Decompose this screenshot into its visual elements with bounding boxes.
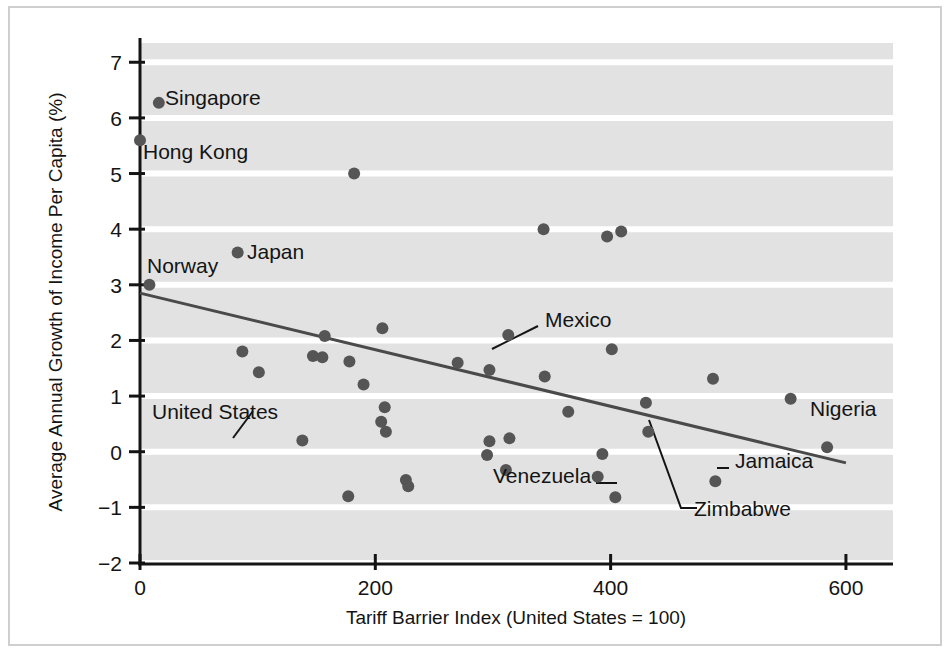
y-axis-tick-label: −1 xyxy=(98,496,122,519)
data-point xyxy=(380,426,392,438)
data-point xyxy=(253,366,265,378)
data-point xyxy=(609,491,621,503)
data-point xyxy=(606,343,618,355)
x-axis-title: Tariff Barrier Index (United States = 10… xyxy=(346,607,686,628)
data-point xyxy=(562,406,574,418)
data-point xyxy=(376,322,388,334)
data-point xyxy=(538,223,550,235)
data-point xyxy=(342,490,354,502)
data-point xyxy=(502,329,514,341)
data-point xyxy=(402,480,414,492)
data-point xyxy=(709,475,721,487)
data-point xyxy=(640,397,652,409)
y-axis-tick-label: 0 xyxy=(110,441,122,464)
y-axis-tick-labels: −2−101234567 xyxy=(98,51,122,575)
point-label-jamaica: Jamaica xyxy=(735,449,814,472)
data-point xyxy=(236,346,248,358)
data-point xyxy=(483,364,495,376)
data-point xyxy=(592,471,604,483)
point-label-nigeria: Nigeria xyxy=(810,397,877,420)
y-axis-tick-label: 2 xyxy=(110,329,122,352)
data-point xyxy=(143,279,155,291)
data-point xyxy=(153,97,165,109)
point-label-mexico: Mexico xyxy=(545,308,612,331)
data-point xyxy=(379,401,391,413)
x-axis-tick-label: 400 xyxy=(593,576,628,599)
x-axis-tick-label: 0 xyxy=(134,576,146,599)
data-point xyxy=(539,371,551,383)
y-axis-tick-label: −2 xyxy=(98,552,122,575)
y-axis-tick-label: 1 xyxy=(110,385,122,408)
data-point xyxy=(601,230,613,242)
y-axis-title: Average Annual Growth of Income Per Capi… xyxy=(45,93,66,512)
point-label-singapore: Singapore xyxy=(165,86,261,109)
y-axis-tick-label: 4 xyxy=(110,218,122,241)
x-axis-tick-label: 600 xyxy=(828,576,863,599)
data-point xyxy=(785,393,797,405)
point-label-zimbabwe: Zimbabwe xyxy=(694,497,791,520)
point-label-united-states: United States xyxy=(152,400,278,423)
data-point xyxy=(316,351,328,363)
data-point xyxy=(596,448,608,460)
data-point xyxy=(358,378,370,390)
data-point xyxy=(483,435,495,447)
y-axis-tick-label: 5 xyxy=(110,163,122,186)
data-point xyxy=(343,356,355,368)
y-axis-tick-label: 6 xyxy=(110,107,122,130)
point-label-norway: Norway xyxy=(147,254,219,277)
data-point xyxy=(615,225,627,237)
data-point xyxy=(232,247,244,259)
point-label-japan: Japan xyxy=(247,240,304,263)
point-label-venezuela: Venezuela xyxy=(493,464,591,487)
data-point xyxy=(707,373,719,385)
data-point xyxy=(296,435,308,447)
data-point xyxy=(503,432,515,444)
point-label-hong-kong: Hong Kong xyxy=(143,140,248,163)
data-point xyxy=(821,441,833,453)
data-point xyxy=(642,426,654,438)
x-axis-tick-labels: 0200400600 xyxy=(134,576,863,599)
data-point xyxy=(481,449,493,461)
y-axis-tick-label: 7 xyxy=(110,51,122,74)
x-axis-tick-label: 200 xyxy=(358,576,393,599)
plot-wrapper: −2−101234567 0200400600 SingaporeHong Ko… xyxy=(0,0,952,664)
scatter-chart: −2−101234567 0200400600 SingaporeHong Ko… xyxy=(0,0,952,664)
data-point xyxy=(348,168,360,180)
data-point xyxy=(319,330,331,342)
figure-container: −2−101234567 0200400600 SingaporeHong Ko… xyxy=(0,0,952,664)
y-axis-tick-label: 3 xyxy=(110,274,122,297)
data-point xyxy=(452,357,464,369)
